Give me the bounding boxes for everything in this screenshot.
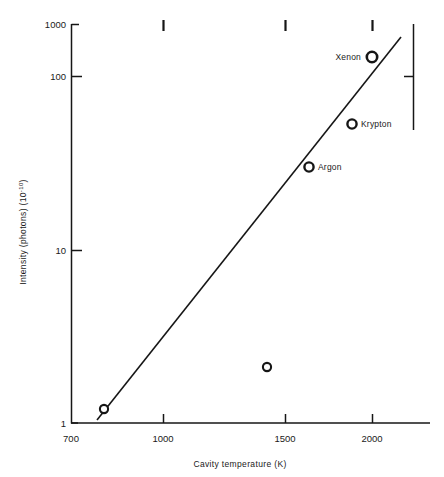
x-tick-label-2000: 2000: [361, 433, 382, 444]
y-axis-title-main: Intensity (photons) (10: [18, 192, 28, 285]
scatter-plot: 1000 100 10 1 700 1000 1500 2000: [0, 0, 444, 477]
data-point-marker: [263, 363, 271, 371]
data-point-marker-xenon: [367, 52, 377, 62]
x-tick-label-700: 700: [63, 433, 79, 444]
data-point-label-krypton: Krypton: [361, 119, 392, 129]
y-axis-title-exponent: -10: [18, 182, 24, 192]
plot-axes: [71, 24, 430, 424]
top-axis-ticks: [164, 20, 373, 31]
y-axis-ticks: [72, 25, 83, 424]
y-axis-title-group: Intensity (photons) (10-10): [18, 179, 29, 285]
y-tick-label-1: 1: [61, 418, 66, 429]
x-axis-ticks: [164, 414, 373, 423]
data-points: [100, 52, 377, 413]
x-axis-title: Cavity temperature (K): [193, 459, 286, 469]
data-point-label-xenon: Xenon: [335, 52, 361, 62]
data-point-label-argon: Argon: [318, 162, 342, 172]
y-tick-label-10: 10: [55, 245, 66, 256]
data-point-marker-krypton: [347, 119, 356, 128]
y-tick-label-100: 100: [50, 71, 66, 82]
data-point-marker: [100, 405, 108, 413]
y-tick-label-1000: 1000: [45, 19, 66, 30]
fit-line: [97, 37, 401, 420]
y-axis-title: Intensity (photons) (10-10): [18, 179, 29, 285]
y-axis-title-close: ): [18, 179, 28, 182]
data-point-marker-argon: [304, 162, 313, 171]
x-tick-label-1000: 1000: [152, 433, 173, 444]
x-tick-label-1500: 1500: [274, 433, 295, 444]
chart-figure: 1000 100 10 1 700 1000 1500 2000: [0, 0, 444, 477]
